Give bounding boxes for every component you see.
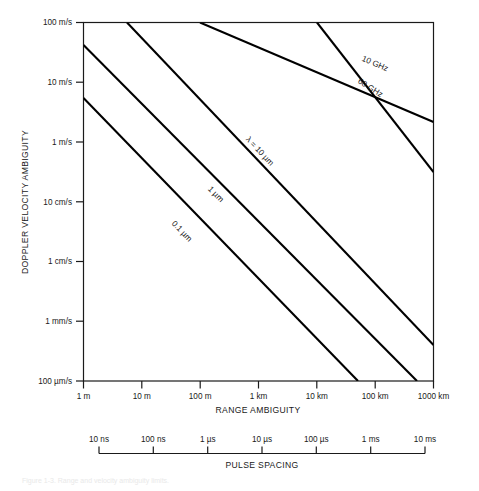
pulse-tick-label-1: 100 ns	[141, 435, 166, 444]
pulse-tick-label-5: 1 ms	[362, 435, 380, 444]
chart-svg: 100 m/s 10 m/s 1 m/s 10 cm/s 1 cm/s 1 mm…	[0, 0, 479, 491]
y-tick-label-0: 100 m/s	[43, 18, 72, 27]
figure-caption: Figure 1-3. Range and velocity ambiguity…	[22, 477, 169, 485]
pulse-tick-label-2: 1 µs	[200, 435, 216, 444]
pulse-tick-label-3: 10 µs	[252, 435, 272, 444]
figure-container: 100 m/s 10 m/s 1 m/s 10 cm/s 1 cm/s 1 mm…	[0, 0, 479, 491]
x-tick-label-2: 100 m	[189, 392, 212, 401]
x-tick-label-3: 1 km	[250, 392, 268, 401]
x-tick-label-5: 100 km	[362, 392, 389, 401]
pulse-tick-label-4: 100 µs	[304, 435, 329, 444]
x-tick-label-0: 1 m	[77, 392, 91, 401]
y-axis-title: DOPPLER VELOCITY AMBIGUITY	[20, 130, 30, 274]
y-tick-label-6: 100 µm/s	[38, 377, 72, 386]
pulse-tick-label-6: 10 ms	[414, 435, 436, 444]
x-tick-label-6: 1000 km	[418, 392, 450, 401]
chart-background	[0, 0, 479, 491]
y-tick-label-4: 1 cm/s	[48, 257, 72, 266]
y-tick-label-5: 1 mm/s	[45, 317, 72, 326]
x-tick-label-1: 10 m	[133, 392, 151, 401]
x-axis-title: RANGE AMBIGUITY	[216, 405, 301, 415]
x-tick-label-4: 10 km	[306, 392, 328, 401]
y-tick-label-3: 10 cm/s	[43, 198, 72, 207]
pulse-axis-title: PULSE SPACING	[225, 460, 298, 470]
pulse-tick-label-0: 10 ns	[89, 435, 109, 444]
y-tick-label-1: 10 m/s	[47, 78, 72, 87]
y-tick-label-2: 1 m/s	[52, 138, 72, 147]
